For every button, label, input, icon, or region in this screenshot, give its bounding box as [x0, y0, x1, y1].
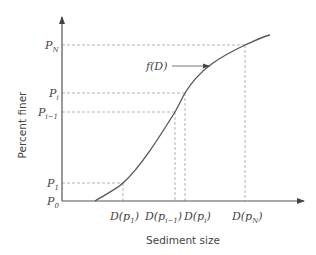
cumulative-curve [95, 35, 270, 201]
x-axis-title: Sediment size [146, 234, 220, 246]
y-tick-labels: PN Pi Pi−1 P1 P0 [37, 39, 59, 210]
y-tick-p1: P1 [46, 177, 59, 192]
y-tick-pi-1: Pi−1 [37, 106, 58, 121]
x-tick-dpi-1: D(pi−1) [144, 210, 182, 225]
y-tick-p0: P0 [46, 195, 59, 210]
x-tick-dpn: D(pN) [231, 210, 263, 225]
curve-label: f(D) [145, 60, 167, 73]
y-tick-pi: Pi [48, 87, 59, 102]
x-tick-dp1: D(p1) [109, 210, 139, 225]
y-tick-pn: PN [44, 39, 59, 54]
x-tick-dpi: D(pi) [183, 210, 211, 225]
y-axis-title: Percent finer [16, 91, 28, 159]
x-tick-labels: D(p1) D(pi−1) D(pi) D(pN) [109, 210, 263, 225]
grain-size-diagram: f(D) PN Pi Pi−1 P1 P0 D(p1) D(pi−1) D(pi… [0, 0, 316, 255]
